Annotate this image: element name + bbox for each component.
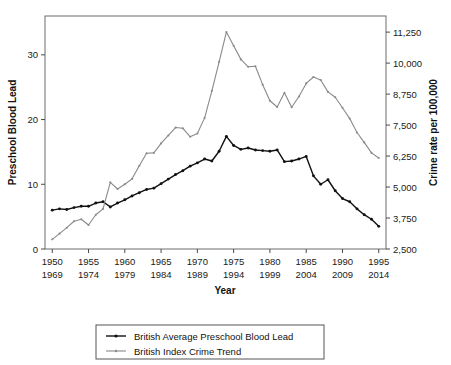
x-tick-label-bottom: 2009 — [332, 269, 353, 280]
data-point-crime — [117, 188, 119, 190]
data-point-lead — [189, 165, 192, 168]
data-point-lead — [348, 200, 351, 203]
data-point-lead — [94, 202, 97, 205]
data-point-lead — [254, 149, 257, 152]
data-point-crime — [196, 132, 198, 134]
x-tick-label-bottom: 1969 — [42, 269, 63, 280]
data-point-lead — [160, 182, 163, 185]
data-point-lead — [319, 183, 322, 186]
data-point-lead — [131, 194, 134, 197]
data-point-crime — [109, 181, 111, 183]
data-point-crime — [247, 66, 249, 68]
data-point-lead — [203, 158, 206, 161]
data-point-crime — [131, 178, 133, 180]
chart-legend[interactable]: British Average Preschool Blood LeadBrit… — [96, 325, 324, 359]
data-point-crime — [349, 118, 351, 120]
data-point-crime — [102, 208, 104, 210]
data-point-lead — [116, 202, 119, 205]
data-point-lead — [80, 205, 83, 208]
data-point-crime — [269, 100, 271, 102]
data-point-lead — [102, 200, 105, 203]
data-point-crime — [95, 214, 97, 216]
data-point-lead — [297, 158, 300, 161]
data-point-crime — [298, 96, 300, 98]
data-point-lead — [218, 150, 221, 153]
data-point-crime — [363, 141, 365, 143]
legend-label-0: British Average Preschool Blood Lead — [134, 331, 293, 342]
data-point-lead — [152, 187, 155, 190]
data-point-crime — [153, 152, 155, 154]
data-point-lead — [225, 135, 228, 138]
data-point-crime — [291, 106, 293, 108]
data-point-crime — [167, 134, 169, 136]
data-point-crime — [80, 218, 82, 220]
data-point-crime — [283, 92, 285, 94]
y-right-tick-label: 2,500 — [393, 244, 417, 255]
y-left-tick-label: 0 — [33, 244, 38, 255]
x-tick-label-bottom: 1984 — [151, 269, 172, 280]
data-point-lead — [363, 213, 366, 216]
data-point-lead — [87, 205, 90, 208]
legend-swatch-marker-0 — [114, 334, 117, 337]
data-point-lead — [138, 191, 141, 194]
data-point-lead — [210, 160, 213, 163]
legend-swatch-marker-1 — [115, 350, 117, 352]
data-point-crime — [240, 58, 242, 60]
data-point-lead — [334, 189, 337, 192]
data-point-crime — [356, 131, 358, 133]
data-point-lead — [276, 149, 279, 152]
data-point-crime — [276, 106, 278, 108]
x-tick-label-top: 1965 — [151, 256, 172, 267]
x-tick-label-top: 1995 — [368, 256, 389, 267]
y-right-tick-label: 6,250 — [393, 151, 417, 162]
data-point-crime — [58, 233, 60, 235]
x-tick-label-top: 1980 — [259, 256, 280, 267]
data-point-crime — [73, 220, 75, 222]
data-point-lead — [58, 207, 61, 210]
data-point-lead — [123, 198, 126, 201]
chart-figure: 1950196919551974196019791965198419701989… — [0, 0, 451, 365]
data-point-crime — [160, 142, 162, 144]
data-point-crime — [66, 227, 68, 229]
y-axis-title-right: Crime rate per 100,000 — [428, 79, 439, 186]
y-right-tick-label: 3,750 — [393, 213, 417, 224]
data-point-lead — [73, 206, 76, 209]
y-right-tick-label: 10,000 — [393, 58, 422, 69]
data-point-lead — [196, 161, 199, 164]
x-tick-label-top: 1955 — [78, 256, 99, 267]
x-tick-label-bottom: 1974 — [78, 269, 99, 280]
data-point-crime — [175, 126, 177, 128]
data-point-lead — [109, 205, 112, 208]
legend-label-1: British Index Crime Trend — [134, 346, 241, 357]
y-right-tick-label: 5,000 — [393, 182, 417, 193]
x-tick-label-bottom: 1994 — [223, 269, 244, 280]
data-point-crime — [124, 183, 126, 185]
y-right-tick-label: 11,250 — [393, 27, 421, 38]
data-point-crime — [211, 90, 213, 92]
x-tick-label-bottom: 2014 — [368, 269, 389, 280]
data-point-lead — [65, 208, 68, 211]
data-point-crime — [189, 136, 191, 138]
data-point-lead — [239, 148, 242, 151]
y-right-tick-label: 7,500 — [393, 120, 417, 131]
data-point-lead — [181, 169, 184, 172]
data-point-crime — [327, 91, 329, 93]
data-point-crime — [341, 107, 343, 109]
legend-item-0[interactable]: British Average Preschool Blood Lead — [106, 331, 293, 342]
x-tick-label-bottom: 1989 — [187, 269, 208, 280]
x-tick-label-bottom: 1979 — [114, 269, 135, 280]
x-tick-label-top: 1950 — [42, 256, 63, 267]
x-tick-label-top: 1970 — [187, 256, 208, 267]
data-point-lead — [232, 144, 235, 147]
data-point-lead — [312, 174, 315, 177]
data-point-lead — [174, 173, 177, 176]
data-point-lead — [290, 160, 293, 163]
data-point-lead — [356, 207, 359, 210]
data-point-crime — [254, 65, 256, 67]
data-point-crime — [320, 79, 322, 81]
x-tick-label-top: 1975 — [223, 256, 244, 267]
data-point-lead — [283, 160, 286, 163]
data-point-lead — [247, 147, 250, 150]
y-right-tick-label: 8,750 — [393, 89, 417, 100]
y-axis-title-left: Preschool Blood Lead — [7, 80, 18, 186]
